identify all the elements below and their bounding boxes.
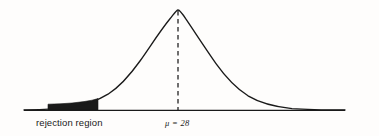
normal-distribution-figure: rejection region μ = 28 <box>0 0 379 136</box>
bell-curve <box>24 10 345 110</box>
distribution-plot <box>0 0 379 136</box>
mean-value-label: μ = 28 <box>165 119 190 128</box>
rejection-region-label: rejection region <box>36 118 103 128</box>
